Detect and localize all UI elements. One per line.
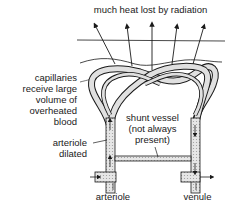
radiation-label: much heat lost by radiation [88,4,213,15]
arteriole-label: arteriole [88,191,138,202]
shunt-line-3: present) [120,134,185,145]
shunt-line-2: (not always [120,123,185,134]
capillaries-line-3: volume of [0,94,77,105]
shunt-vessel-label: shunt vessel (not always present) [120,112,185,145]
arteriole-dilated-line-1: arteriole [0,137,87,148]
capillaries-line-2: receive large [0,83,77,94]
shunt-vessel [115,156,191,161]
shunt-line-1: shunt vessel [120,112,185,123]
capillaries-line-4: overheated [0,105,77,116]
arteriole-dilated-label: arteriole dilated [0,137,87,159]
skin-surface-line [77,40,225,41]
venule-label: venule [175,191,220,202]
capillaries-line-5: blood [0,116,77,127]
venule-base [181,172,200,182]
capillaries-line-1: capillaries [0,72,77,83]
capillaries-label: capillaries receive large volume of over… [0,72,77,127]
arteriole-dilated-line-2: dilated [0,148,87,159]
epidermis-line [80,59,222,66]
